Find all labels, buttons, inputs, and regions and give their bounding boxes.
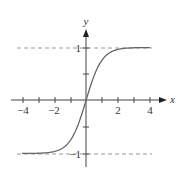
x-tick-label-2: 2 (115, 104, 121, 116)
y-tick-label-neg1: −1 (69, 148, 81, 160)
y-axis-label: y (83, 15, 89, 27)
x-tick-label-neg4: −4 (17, 104, 29, 116)
y-tick-label-1: 1 (76, 42, 82, 54)
x-tick-label-4: 4 (147, 104, 153, 116)
y-axis-arrow-icon (83, 29, 89, 37)
tanh-chart: −4 −2 2 4 1 −1 x y (0, 0, 186, 175)
x-axis-label: x (169, 93, 175, 105)
x-axis-arrow-icon (159, 97, 167, 103)
x-tick-label-neg2: −2 (48, 104, 60, 116)
